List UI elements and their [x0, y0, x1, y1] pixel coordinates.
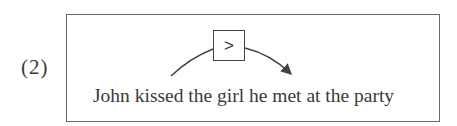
arc-left	[171, 49, 213, 76]
dependency-arcs	[0, 0, 457, 126]
relation-box: >	[213, 30, 245, 61]
arc-right-arrow	[245, 48, 290, 73]
greater-than-symbol: >	[224, 36, 234, 56]
example-sentence: John kissed the girl he met at the party	[93, 85, 394, 107]
